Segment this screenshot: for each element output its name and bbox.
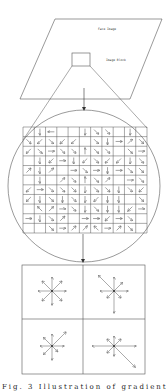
- gradient-arrow: [105, 187, 109, 191]
- gradient-arrow: [26, 139, 30, 143]
- gradient-arrow: [49, 187, 53, 191]
- gradient-arrow: [71, 178, 75, 182]
- funnel-line-right: [90, 66, 147, 128]
- gradient-arrow: [105, 216, 109, 220]
- face-image-panel: Face Image Image Block: [20, 19, 162, 99]
- gradient-arrow: [71, 149, 75, 153]
- figure-caption: Fig. 3 Illustration of gradient orientat…: [2, 383, 167, 391]
- gradient-arrow: [139, 158, 143, 162]
- gradient-arrow: [38, 139, 42, 143]
- gradient-arrow: [49, 207, 53, 211]
- gradient-arrow: [26, 149, 30, 153]
- magnifier-circle: [8, 110, 160, 262]
- gradient-arrow: [83, 168, 87, 172]
- gradient-arrow: [26, 187, 30, 191]
- gradient-arrow: [60, 149, 64, 153]
- image-block-label: Image Block: [106, 58, 126, 62]
- hog-pipeline-diagram: Face Image Image Block: [0, 0, 167, 391]
- gradient-arrow: [71, 187, 75, 191]
- gradient-arrow: [71, 226, 75, 230]
- gradient-arrow: [49, 168, 53, 172]
- gradient-arrow: [60, 178, 64, 182]
- gradient-arrow: [49, 158, 53, 162]
- gradient-arrow: [49, 226, 53, 230]
- gradient-arrow: [105, 178, 109, 182]
- gradient-arrow: [117, 226, 121, 230]
- gradient-arrow: [139, 139, 143, 143]
- gradient-arrow: [128, 226, 132, 230]
- gradient-arrow: [128, 139, 132, 143]
- gradient-arrow: [139, 178, 143, 182]
- gradient-arrow: [139, 187, 143, 191]
- gradient-arrow: [139, 168, 143, 172]
- gradient-arrow: [128, 216, 132, 220]
- image-block-rect: [72, 53, 90, 66]
- gradient-arrow: [94, 139, 98, 143]
- gradient-arrow: [105, 149, 109, 153]
- face-image-label: Face Image: [98, 27, 116, 31]
- gradient-arrow: [139, 197, 143, 201]
- orientation-histograms: [38, 275, 136, 367]
- gradient-arrow: [105, 158, 109, 162]
- gradient-arrow: [49, 197, 53, 201]
- gradient-arrow: [60, 187, 64, 191]
- gradient-arrow: [128, 187, 132, 191]
- histogram-bottom-left: [40, 332, 66, 360]
- gradient-arrow: [49, 216, 53, 220]
- gradient-arrow: [94, 130, 98, 134]
- gradient-arrow: [26, 197, 30, 201]
- gradient-arrow: [71, 207, 75, 211]
- gradient-arrow: [94, 158, 98, 162]
- gradient-arrow: [71, 197, 75, 201]
- gradient-arrow: [60, 216, 64, 220]
- gradient-grid: [23, 127, 147, 233]
- gradient-arrow: [94, 197, 98, 201]
- gradient-arrow: [128, 207, 132, 211]
- histogram-box: [22, 265, 145, 374]
- gradient-arrow: [83, 158, 87, 162]
- gradient-arrow: [71, 139, 75, 143]
- gradient-arrow: [94, 226, 98, 230]
- gradient-arrow: [94, 207, 98, 211]
- histogram-bottom-right: [92, 336, 136, 367]
- histogram-top-right: [98, 275, 128, 313]
- gradient-arrow: [83, 226, 87, 230]
- gradient-arrow: [128, 149, 132, 153]
- gradient-arrow: [94, 149, 98, 153]
- gradient-arrow: [128, 168, 132, 172]
- histogram-panel: [22, 265, 145, 374]
- gradient-arrow: [94, 187, 98, 191]
- histogram-top-left: [38, 277, 66, 305]
- gradient-arrow: [117, 158, 121, 162]
- gradient-arrow: [105, 130, 109, 134]
- gradient-arrow: [49, 139, 53, 143]
- gradient-arrow: [38, 207, 42, 211]
- gradient-arrow: [38, 149, 42, 153]
- gradient-arrow: [60, 139, 64, 143]
- gradient-arrow: [94, 178, 98, 182]
- funnel-line-left: [23, 66, 72, 140]
- gradient-arrow: [26, 168, 30, 172]
- face-image-plane: [20, 19, 162, 99]
